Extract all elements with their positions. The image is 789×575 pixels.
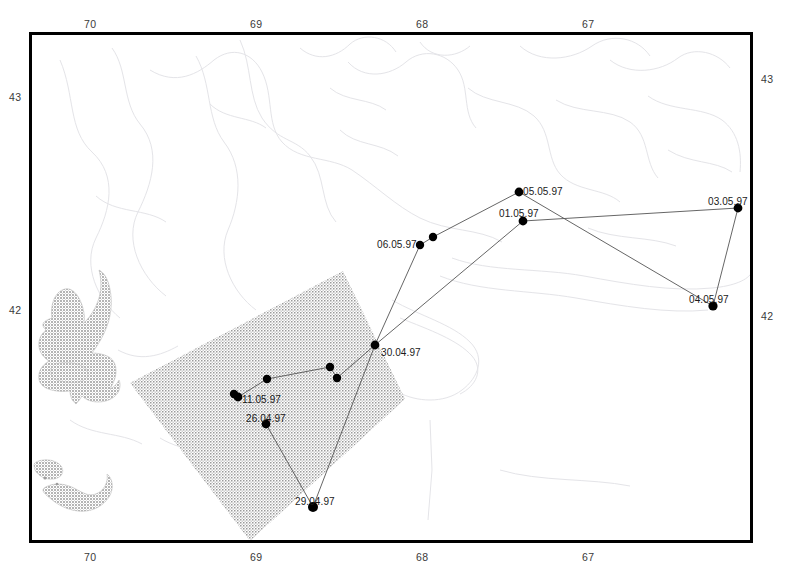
station-marker (371, 341, 380, 350)
axis-tick-left-43: 43 (9, 91, 21, 103)
station-label-04-05-97: 04.05.97 (689, 294, 729, 305)
axis-tick-top-70: 70 (84, 18, 96, 30)
station-marker (263, 375, 271, 383)
axis-tick-top-69: 69 (250, 18, 262, 30)
axis-tick-bottom-67: 67 (582, 551, 594, 563)
station-label-26-04-97: 26.04.97 (246, 413, 286, 424)
axis-tick-top-67: 67 (582, 18, 594, 30)
axis-tick-bottom-68: 68 (416, 551, 428, 563)
axis-tick-top-68: 68 (416, 18, 428, 30)
axis-tick-bottom-70: 70 (84, 551, 96, 563)
map-canvas (0, 0, 789, 575)
station-label-06-05-97: 06.05.97 (377, 239, 417, 250)
axis-tick-right-43: 43 (761, 73, 773, 85)
station-label-03-05-97: 03.05.97 (708, 196, 748, 207)
axis-tick-left-42: 42 (9, 304, 21, 316)
station-marker (429, 233, 437, 241)
station-marker (416, 241, 424, 249)
station-label-30-04-97: 30.04.97 (381, 347, 421, 358)
station-marker (333, 374, 341, 382)
station-marker (230, 390, 238, 398)
station-label-29-04-97: 29.04.97 (295, 496, 335, 507)
axis-tick-bottom-69: 69 (250, 551, 262, 563)
station-label-01-05-97: 01.05.97 (499, 208, 539, 219)
map-figure: 70 69 68 67 70 69 68 67 43 42 43 42 26.0… (0, 0, 789, 575)
station-label-05-05-97: 05.05.97 (523, 186, 563, 197)
plot-background (31, 34, 751, 541)
axis-tick-right-42: 42 (761, 310, 773, 322)
station-label-11-05-97: 11.05.97 (242, 394, 281, 405)
station-marker (326, 363, 334, 371)
